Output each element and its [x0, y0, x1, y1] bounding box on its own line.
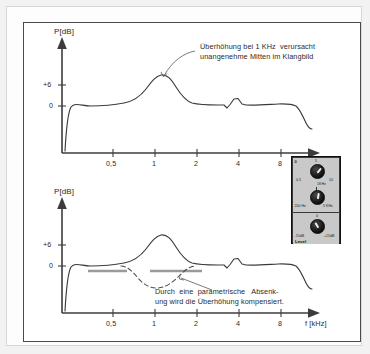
- outer-frame: P[dB] +6 0 0,5 1 2 4 8 f [kHz] Überhöhun…: [6, 6, 362, 346]
- q-knob[interactable]: [310, 164, 325, 179]
- inner-frame: P[dB] +6 0 0,5 1 2 4 8 f [kHz] Überhöhun…: [23, 22, 361, 342]
- top-chart-ytick-plus6: +6: [43, 80, 51, 90]
- top-chart-response-curve: [65, 75, 312, 151]
- bottom-chart: P[dB] +6 0 0,5 1 2 4 8 f [kHz] Durch ein…: [24, 183, 362, 343]
- figure-page: P[dB] +6 0 0,5 1 2 4 8 f [kHz] Überhöhun…: [0, 0, 370, 354]
- bottom-chart-cut-curve: [121, 266, 196, 288]
- top-chart-annotation-line2: unangenehme Mitten im Klangbild: [200, 52, 313, 62]
- top-chart-xtick-2: 2: [194, 159, 198, 169]
- bottom-chart-xtick-4: 4: [236, 319, 240, 329]
- top-chart-y-axis-label: P[dB]: [54, 27, 74, 37]
- q-knob-top-label: 5: [315, 159, 317, 163]
- top-chart-xtick-4: 4: [236, 159, 240, 169]
- q-knob-right-label: 10: [329, 178, 333, 182]
- top-chart-ytick-zero: 0: [49, 101, 53, 111]
- q-knob-corner-marker: 0: [295, 159, 297, 164]
- bottom-chart-ytick-plus6: +6: [43, 240, 51, 250]
- bottom-chart-ytick-zero: 0: [49, 261, 53, 271]
- top-chart-annotation-line1: Überhöhung bei 1 KHz verursacht: [200, 42, 315, 52]
- q-knob-left-label: 0,5: [296, 178, 301, 182]
- bottom-chart-y-axis-label: P[dB]: [54, 187, 74, 197]
- bottom-chart-y-axis: [57, 197, 67, 313]
- bottom-chart-xtick-8: 8: [278, 319, 282, 329]
- bottom-chart-annotation-line2: ung wird die Überhöhung kompensiert.: [155, 297, 284, 307]
- top-chart-y-axis: [57, 37, 67, 153]
- top-chart-leader-line: [164, 51, 195, 76]
- bottom-chart-xtick-1: 1: [152, 319, 156, 329]
- q-knob-pointer: [316, 167, 321, 173]
- bottom-chart-xtick-2: 2: [194, 319, 198, 329]
- top-chart-xtick-0-5: 0,5: [106, 159, 116, 169]
- top-chart-xtick-8: 8: [278, 159, 282, 169]
- bottom-chart-x-axis-label: f [kHz]: [305, 319, 327, 329]
- bottom-chart-annotation-line1: Durch eine parametrische Absenk-: [155, 287, 279, 297]
- top-chart-xtick-1: 1: [152, 159, 156, 169]
- bottom-chart-xtick-0-5: 0,5: [106, 319, 116, 329]
